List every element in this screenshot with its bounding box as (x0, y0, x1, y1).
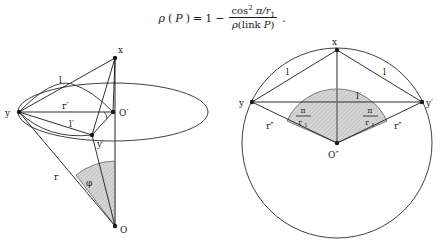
label-segment-r: r (54, 172, 59, 182)
point-yprime-dot (420, 100, 424, 104)
diagrams-svg: x y O′ y′ O l r′ l′ r φ (0, 0, 444, 248)
point-O-dot (113, 224, 117, 228)
label-point-O-double-prime: O″ (328, 150, 339, 160)
label-segment-l-right: l (383, 67, 386, 77)
label-segment-r-double-prime-right: r″ (394, 121, 402, 131)
left-diagram: x y O′ y′ O l r′ l′ r φ (4, 45, 208, 235)
right-angle-mark (104, 112, 107, 119)
point-x-dot (113, 56, 117, 60)
right-diagram: x y y′ O″ l l l′ r″ r″ π r 1 π r 1 (238, 37, 433, 238)
label-point-O-prime: O′ (119, 108, 128, 118)
point-y-dot (17, 110, 21, 114)
label-angle-phi: φ (86, 178, 92, 188)
label-point-x: x (118, 45, 123, 55)
point-Oprime-dot (111, 110, 115, 114)
angle-right-numerator: π (368, 106, 373, 115)
point-x-dot (335, 48, 339, 52)
point-Odoubleprime-dot (335, 141, 339, 145)
label-point-O: O (120, 225, 127, 235)
angle-left-denominator-subscript: 1 (304, 122, 308, 128)
angle-right-denominator: r (365, 118, 369, 127)
label-point-y-prime: y′ (96, 139, 104, 149)
label-segment-l-prime: l′ (356, 91, 361, 101)
label-point-x: x (332, 37, 337, 47)
angle-left-denominator: r (298, 118, 302, 127)
label-segment-r-double-prime-left: r″ (266, 121, 274, 131)
label-point-y: y (238, 98, 245, 108)
angle-right-denominator-subscript: 1 (371, 122, 375, 128)
point-yprime-dot (90, 133, 94, 137)
phi-angle-sector (76, 161, 115, 226)
label-segment-l-left: l (286, 67, 289, 77)
label-point-y-prime: y′ (425, 98, 433, 108)
point-y-dot (250, 100, 254, 104)
segment-l-prime (19, 112, 92, 135)
figure-root: ρ(P) = 1 − cos2 π/r1 ρ(link P) . (0, 0, 444, 248)
angle-left-numerator: π (301, 106, 306, 115)
label-point-y: y (4, 108, 11, 118)
label-segment-l: l (59, 75, 62, 85)
label-segment-l-prime: l′ (69, 119, 74, 129)
label-segment-r-prime: r′ (62, 101, 68, 111)
